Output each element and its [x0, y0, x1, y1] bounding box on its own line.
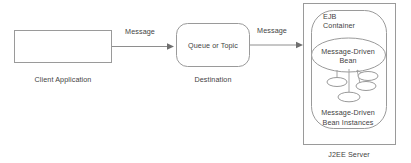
- client-application-box: [15, 31, 112, 63]
- message-driven-bean-label-line1: Message-Driven: [321, 47, 375, 56]
- mdb-instance-ellipse-4: [338, 92, 360, 102]
- mdb-instance-ellipse-3: [356, 82, 376, 91]
- mdb-instance-ellipse-2: [358, 72, 378, 81]
- client-application-caption: Client Application: [35, 75, 92, 84]
- diagram-canvas: Client Application Message Queue or Topi…: [0, 0, 411, 163]
- mdb-instances-label-line1: Message-Driven: [321, 108, 375, 117]
- mdb-instances-label-line2: Bean Instances: [323, 118, 374, 127]
- edge-label-message-1: Message: [125, 27, 155, 36]
- arrowhead-destination-to-server: [296, 42, 303, 49]
- arrowhead-client-to-destination: [167, 43, 174, 50]
- message-driven-bean-label-line2: Bean: [339, 56, 356, 65]
- queue-or-topic-label: Queue or Topic: [188, 41, 238, 50]
- j2ee-server-caption: J2EE Server: [328, 150, 369, 159]
- destination-caption: Destination: [194, 75, 231, 84]
- mdb-instance-ellipse-1: [327, 78, 347, 87]
- ejb-container-label-line1: EJB: [323, 12, 336, 21]
- edge-label-message-2: Message: [257, 26, 287, 35]
- ejb-container-label-line2: Container: [323, 21, 355, 30]
